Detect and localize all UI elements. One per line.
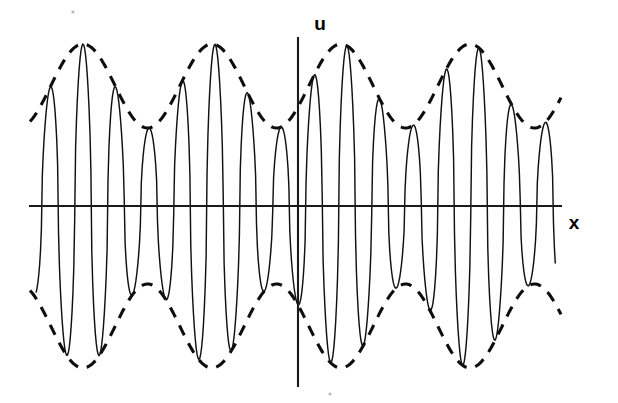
x-axis-label: x bbox=[569, 212, 580, 233]
scan-speck-top bbox=[71, 10, 74, 13]
figure-background bbox=[0, 0, 618, 403]
scan-speck-bottom bbox=[328, 392, 331, 395]
u-axis-label: u bbox=[314, 13, 326, 34]
wave-figure-svg: u x bbox=[0, 0, 618, 403]
figure-root: u x bbox=[0, 0, 618, 403]
